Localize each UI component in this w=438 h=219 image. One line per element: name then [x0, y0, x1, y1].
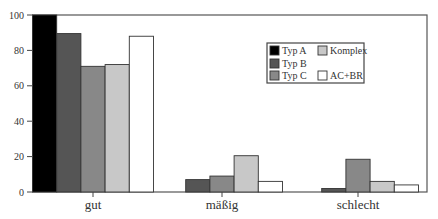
bar-typ-c-0 [81, 66, 105, 192]
legend: Typ AKomplexTyp BTyp CAC+BR [267, 43, 367, 83]
bar-typ-b-2 [322, 188, 346, 192]
bar-typ-b-0 [57, 34, 81, 192]
bar-ac-br-2 [394, 185, 418, 192]
legend-label-typ-a: Typ A [282, 45, 307, 56]
bars [33, 15, 419, 192]
bar-chart: 020406080100 gutmäßigschlecht Typ AKompl… [0, 0, 438, 219]
bar-typ-b-1 [186, 180, 210, 192]
legend-swatch-typ-a [270, 46, 279, 55]
y-tick-label: 40 [14, 116, 24, 127]
bar-ac-br-1 [258, 181, 282, 192]
y-tick-label: 0 [19, 187, 24, 198]
bar-ac-br-0 [129, 36, 153, 192]
y-tick-label: 60 [14, 80, 24, 91]
bar-typ-c-2 [346, 159, 370, 192]
x-category-label: mäßig [206, 197, 239, 212]
y-tick-label: 100 [9, 10, 24, 21]
x-category-label: schlecht [337, 197, 380, 212]
legend-label-typ-c: Typ C [282, 70, 307, 81]
legend-swatch-komplex [318, 46, 327, 55]
y-tick-label: 80 [14, 45, 24, 56]
legend-label-komplex: Komplex [330, 45, 367, 56]
y-tick-label: 20 [14, 151, 24, 162]
x-axis: gutmäßigschlecht [85, 192, 380, 212]
x-category-label: gut [85, 197, 102, 212]
bar-typ-a-0 [33, 15, 57, 192]
legend-label-ac-br: AC+BR [330, 70, 363, 81]
legend-swatch-typ-c [270, 71, 279, 80]
bar-komplex-0 [105, 65, 129, 192]
legend-swatch-typ-b [270, 59, 279, 68]
bar-komplex-1 [234, 156, 258, 192]
legend-label-typ-b: Typ B [282, 58, 307, 69]
y-axis: 020406080100 [9, 10, 33, 198]
bar-komplex-2 [370, 181, 394, 192]
legend-swatch-ac-br [318, 71, 327, 80]
bar-typ-c-1 [210, 176, 234, 192]
